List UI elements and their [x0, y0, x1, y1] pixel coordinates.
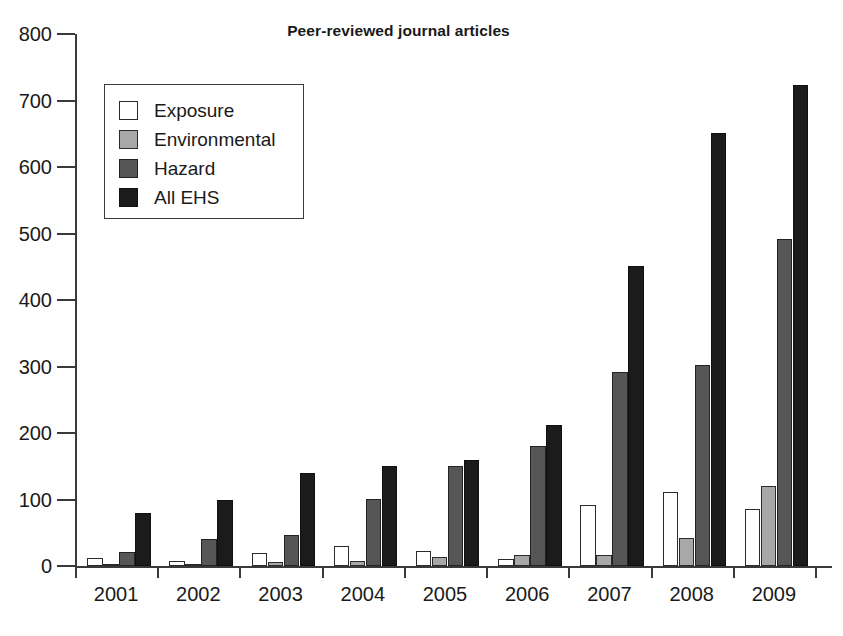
- y-axis-tick-label: 0: [0, 556, 52, 576]
- bar-exposure-2003[interactable]: [252, 553, 268, 566]
- bar-exposure-2009[interactable]: [745, 509, 761, 566]
- legend-item-hazard: Hazard: [119, 154, 303, 183]
- bar-hazard-2008[interactable]: [695, 365, 711, 566]
- bar-environmental-2005[interactable]: [432, 557, 448, 566]
- y-axis-tick-label: 700: [0, 91, 52, 111]
- y-axis-tick-labels: 0100200300400500600700800: [0, 0, 52, 636]
- y-axis-tick: [57, 432, 75, 434]
- y-axis-tick-label: 400: [0, 290, 52, 310]
- bar-allehs-2008[interactable]: [711, 133, 727, 566]
- y-axis-tick: [57, 233, 75, 235]
- bar-hazard-2002[interactable]: [201, 539, 217, 566]
- bar-environmental-2006[interactable]: [514, 555, 530, 566]
- bar-exposure-2007[interactable]: [580, 505, 596, 566]
- y-axis-tick-label: 800: [0, 24, 52, 44]
- bar-allehs-2004[interactable]: [382, 466, 398, 566]
- bar-group-2006: [486, 34, 568, 566]
- bar-allehs-2005[interactable]: [464, 460, 480, 566]
- bar-environmental-2007[interactable]: [596, 555, 612, 566]
- bar-exposure-2006[interactable]: [498, 559, 514, 566]
- bar-environmental-2003[interactable]: [268, 562, 284, 566]
- y-axis-tick: [57, 366, 75, 368]
- bar-environmental-2004[interactable]: [350, 561, 366, 566]
- x-axis-tick: [568, 566, 570, 578]
- bar-hazard-2009[interactable]: [777, 239, 793, 566]
- x-axis-label-2008: 2008: [647, 582, 737, 606]
- bar-group-2007: [568, 34, 650, 566]
- x-axis-tick: [815, 566, 817, 578]
- bar-allehs-2006[interactable]: [546, 425, 562, 566]
- bar-allehs-2002[interactable]: [217, 500, 233, 567]
- bar-hazard-2004[interactable]: [366, 499, 382, 566]
- x-axis-label-2009: 2009: [729, 582, 819, 606]
- bar-exposure-2004[interactable]: [334, 546, 350, 566]
- bar-hazard-2001[interactable]: [119, 552, 135, 566]
- bar-allehs-2003[interactable]: [300, 473, 316, 566]
- x-axis-label-2001: 2001: [71, 582, 161, 606]
- x-axis-tick: [75, 566, 77, 578]
- bar-group-2005: [404, 34, 486, 566]
- legend-swatch-hazard-icon: [119, 159, 138, 178]
- legend-swatch-environmental-icon: [119, 130, 138, 149]
- legend-label-hazard: Hazard: [154, 159, 215, 178]
- y-axis-tick: [57, 299, 75, 301]
- legend-item-exposure: Exposure: [119, 96, 303, 125]
- bar-exposure-2008[interactable]: [663, 492, 679, 566]
- legend-item-environmental: Environmental: [119, 125, 303, 154]
- bar-allehs-2009[interactable]: [793, 85, 809, 566]
- bar-exposure-2005[interactable]: [416, 551, 432, 566]
- x-axis-label-2007: 2007: [564, 582, 654, 606]
- y-axis-tick-label: 500: [0, 224, 52, 244]
- bar-group-2004: [322, 34, 404, 566]
- bar-exposure-2002[interactable]: [169, 561, 185, 566]
- x-axis-tick: [157, 566, 159, 578]
- legend-label-environmental: Environmental: [154, 130, 275, 149]
- bar-allehs-2007[interactable]: [628, 266, 644, 566]
- legend-item-all-ehs: All EHS: [119, 183, 303, 212]
- x-axis-label-2004: 2004: [318, 582, 408, 606]
- x-axis-line: [75, 566, 832, 568]
- x-axis-tick: [733, 566, 735, 578]
- legend-swatch-all-ehs-icon: [119, 188, 138, 207]
- x-axis-label-2005: 2005: [400, 582, 490, 606]
- bar-hazard-2003[interactable]: [284, 535, 300, 566]
- y-axis-tick-label: 300: [0, 357, 52, 377]
- y-axis-tick: [57, 33, 75, 35]
- y-axis-tick-label: 600: [0, 157, 52, 177]
- x-axis-tick: [322, 566, 324, 578]
- bar-group-2008: [651, 34, 733, 566]
- x-axis-label-2003: 2003: [236, 582, 326, 606]
- x-axis-label-2006: 2006: [482, 582, 572, 606]
- x-axis-label-2002: 2002: [153, 582, 243, 606]
- chart-legend: Exposure Environmental Hazard All EHS: [104, 84, 304, 219]
- bar-environmental-2002[interactable]: [185, 564, 201, 566]
- bar-exposure-2001[interactable]: [87, 558, 103, 566]
- bar-environmental-2009[interactable]: [761, 486, 777, 566]
- bar-hazard-2007[interactable]: [612, 372, 628, 566]
- y-axis-tick: [57, 166, 75, 168]
- bar-environmental-2008[interactable]: [679, 538, 695, 566]
- legend-label-exposure: Exposure: [154, 101, 234, 120]
- y-axis-tick: [57, 100, 75, 102]
- bar-hazard-2005[interactable]: [448, 466, 464, 566]
- x-axis-tick: [486, 566, 488, 578]
- bar-hazard-2006[interactable]: [530, 446, 546, 566]
- legend-label-all-ehs: All EHS: [154, 188, 219, 207]
- x-axis-tick: [651, 566, 653, 578]
- y-axis-tick: [57, 565, 75, 567]
- y-axis-tick-label: 100: [0, 490, 52, 510]
- y-axis-tick-label: 200: [0, 423, 52, 443]
- chart-container: Peer-reviewed journal articles 010020030…: [0, 0, 843, 636]
- bar-allehs-2001[interactable]: [135, 513, 151, 566]
- x-axis-tick: [404, 566, 406, 578]
- legend-swatch-exposure-icon: [119, 101, 138, 120]
- bar-environmental-2001[interactable]: [103, 564, 119, 566]
- bar-group-2009: [733, 34, 815, 566]
- y-axis-tick: [57, 499, 75, 501]
- x-axis-tick: [239, 566, 241, 578]
